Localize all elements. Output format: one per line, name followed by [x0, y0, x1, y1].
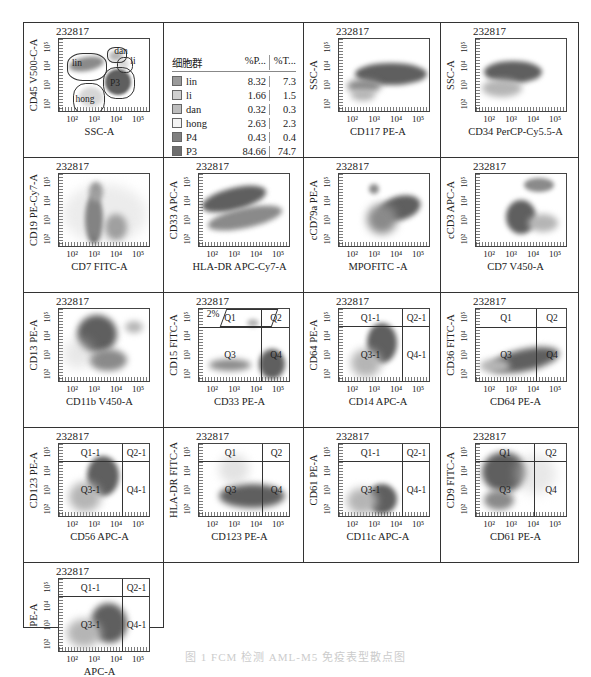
- scatter-area: [475, 173, 567, 247]
- x-tick-label: 10³: [228, 519, 240, 529]
- y-tick-label: 10⁵: [183, 312, 192, 323]
- quadrant-divider-horizontal[interactable]: [59, 461, 149, 462]
- quadrant-divider-vertical[interactable]: [402, 309, 403, 381]
- x-axis-ticks: 10²10³10⁴10⁵: [198, 249, 290, 261]
- quadrant-divider-horizontal[interactable]: [476, 461, 566, 462]
- y-tick-label: 10²: [43, 234, 52, 244]
- legend-header-cell: 细胞群: [172, 55, 232, 70]
- x-tick-label: 10⁵: [132, 384, 144, 394]
- population-color-swatch: [172, 118, 182, 128]
- quadrant-divider-vertical[interactable]: [122, 444, 123, 516]
- quadrant-label: Q3: [500, 350, 512, 360]
- quadrant-divider-horizontal[interactable]: [476, 327, 566, 328]
- y-axis-title: CD61 PE-A: [307, 454, 318, 505]
- x-tick-label: 10⁴: [390, 384, 402, 394]
- x-tick-label: 10⁴: [527, 249, 539, 259]
- population-color-swatch: [172, 146, 182, 156]
- quadrant-divider-horizontal[interactable]: [59, 596, 149, 597]
- x-tick-label: 10³: [505, 384, 517, 394]
- sample-id: 232817: [473, 295, 506, 307]
- y-axis-title: cCD79a PE-A: [307, 180, 318, 240]
- x-tick-label: 10⁵: [132, 249, 144, 259]
- scatter-area: [338, 173, 430, 247]
- x-tick-label: 10²: [483, 249, 495, 259]
- cell-population: [524, 178, 554, 192]
- legend-name-cell: li: [172, 90, 232, 101]
- quadrant-divider-horizontal[interactable]: [339, 461, 429, 462]
- x-tick-label: 10²: [206, 384, 218, 394]
- y-tick-label: 10³: [183, 215, 192, 225]
- y-tick-label: 10³: [43, 215, 52, 225]
- y-tick-label: 10⁵: [43, 447, 52, 458]
- y-axis-ticks: 10²10³10⁴10⁵: [318, 173, 336, 247]
- y-tick-label: 10⁴: [323, 196, 332, 207]
- quadrant-divider-horizontal[interactable]: [199, 461, 289, 462]
- legend-header: 细胞群%P...%T...: [172, 55, 296, 72]
- x-axis-ticks: 10²10³10⁴10⁵: [58, 249, 150, 261]
- y-tick-label: 10²: [460, 234, 469, 244]
- scatter-area: [58, 173, 150, 247]
- cell-population: [63, 184, 147, 244]
- x-axis-label: CD11b V450-A: [38, 396, 161, 407]
- x-tick-label: 10⁵: [549, 249, 561, 259]
- x-axis-label: CD11c APC-A: [318, 531, 438, 542]
- population-color-swatch: [172, 76, 182, 86]
- quadrant-divider-horizontal[interactable]: [339, 326, 429, 327]
- y-axis-ticks: 10²10³10⁴10⁵: [455, 308, 473, 382]
- cell-population: [369, 184, 379, 194]
- quadrant-label: Q2: [545, 448, 557, 458]
- percent-parent: 8.32: [232, 76, 270, 87]
- percent-parent: 1.66: [232, 90, 270, 101]
- cell-population: [219, 454, 249, 484]
- x-axis-label: CD56 APC-A: [38, 531, 161, 542]
- sample-id: 232817: [56, 160, 89, 172]
- quadrant-label: Q3-1: [81, 485, 101, 495]
- y-tick-label: 10³: [183, 350, 192, 360]
- population-color-swatch: [172, 104, 182, 114]
- scatter-plot-panel: 232817CD123 PE-A10²10³10⁴10⁵Q1-1Q2-1Q3-1…: [23, 427, 164, 563]
- quadrant-label: Q2: [546, 313, 558, 323]
- quadrant-label: Q2: [271, 448, 283, 458]
- y-axis-tickmarks: [476, 39, 480, 111]
- x-tick-label: 10⁴: [250, 384, 262, 394]
- x-tick-label: 10³: [368, 249, 380, 259]
- figure-caption: 图 1 FCM 检测 AML-M5 免疫表型散点图: [0, 648, 591, 664]
- y-tick-label: 10²: [323, 99, 332, 109]
- x-axis-tickmarks: [59, 377, 149, 381]
- cell-population: [367, 204, 397, 234]
- y-tick-label: 10²: [183, 504, 192, 514]
- y-tick-label: 10³: [460, 485, 469, 495]
- scatter-plot-panel: 232817CD45 V500-C-A10²10³10⁴10⁵lindanliP…: [23, 22, 164, 158]
- y-axis-ticks: 10²10³10⁴10⁵: [455, 38, 473, 112]
- y-tick-label: 10⁴: [323, 331, 332, 342]
- sample-id: 232817: [473, 25, 506, 37]
- quadrant-label: Q3-1: [361, 350, 381, 360]
- quadrant-divider-vertical[interactable]: [262, 444, 263, 516]
- scatter-plot-panel: 232817SSC-A10²10³10⁴10⁵10²10³10⁴10⁵CD117…: [303, 22, 441, 158]
- y-axis-tickmarks: [199, 174, 203, 246]
- x-tick-label: 10²: [206, 519, 218, 529]
- x-axis-label: CD34 PerCP-Cy5.5-A: [455, 126, 576, 137]
- scatter-area: [58, 308, 150, 382]
- x-axis-label: CD61 PE-A: [455, 531, 576, 542]
- legend-row: dan0.320.3: [172, 102, 296, 116]
- x-axis-label: HLA-DR APC-Cy7-A: [178, 261, 301, 272]
- gate-label: hong: [76, 94, 95, 104]
- y-axis-ticks: 10²10³10⁴10⁵: [318, 38, 336, 112]
- y-axis-ticks: 10²10³10⁴10⁵: [178, 173, 196, 247]
- quadrant-divider-vertical[interactable]: [536, 309, 537, 381]
- polygon-gate[interactable]: [220, 309, 279, 327]
- quadrant-divider-horizontal[interactable]: [199, 327, 289, 328]
- scatter-plot-panel: 232817CD64 PE-A10²10³10⁴10⁵Q1-1Q2-1Q3-1Q…: [303, 292, 441, 428]
- quadrant-divider-vertical[interactable]: [534, 444, 535, 516]
- x-tick-label: 10⁴: [527, 384, 539, 394]
- quadrant-divider-vertical[interactable]: [402, 444, 403, 516]
- x-axis-ticks: 10²10³10⁴10⁵: [475, 519, 567, 531]
- x-axis-tickmarks: [339, 107, 429, 111]
- sample-id: 232817: [56, 430, 89, 442]
- quadrant-divider-vertical[interactable]: [122, 579, 123, 651]
- x-axis-label: CD7 FITC-A: [38, 261, 161, 272]
- x-axis-tickmarks: [339, 242, 429, 246]
- x-axis-ticks: 10²10³10⁴10⁵: [475, 384, 567, 396]
- quadrant-label: Q4: [271, 485, 283, 495]
